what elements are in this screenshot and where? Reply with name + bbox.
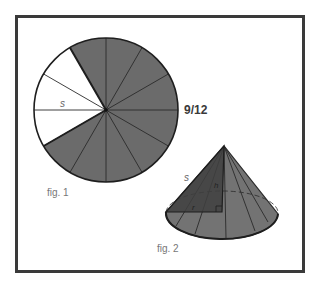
- diagram-canvas: 9/12 s fig. 1 h r s fig. 2: [0, 0, 315, 282]
- circle-center-point: [104, 108, 108, 112]
- cone-slant-label: s: [184, 172, 189, 183]
- fig1-caption: fig. 1: [47, 187, 69, 198]
- cone-radius-label: r: [192, 203, 195, 212]
- fig1-circle: [34, 38, 178, 182]
- fig2-cone: h r: [166, 146, 278, 239]
- fig2-caption: fig. 2: [157, 243, 179, 254]
- fig1-slant-label: s: [60, 98, 65, 109]
- cone-height-label: h: [214, 181, 219, 190]
- fig1-fraction-label: 9/12: [184, 103, 208, 117]
- cone-cross-section-triangle: [166, 146, 224, 212]
